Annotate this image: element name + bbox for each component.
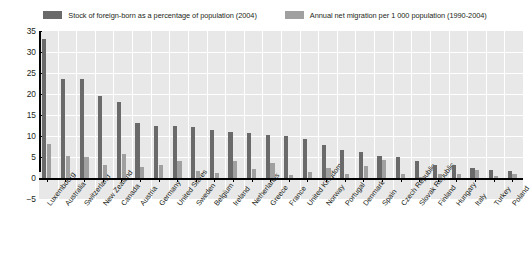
x-axis-tick-mark [140, 178, 141, 182]
bar-stock [228, 132, 232, 178]
bar-stock [266, 135, 270, 178]
bar-migration [270, 163, 274, 178]
bar-stock [247, 133, 251, 178]
x-axis-tick-mark [456, 178, 457, 182]
bar-migration [364, 166, 368, 178]
x-axis-tick-mark [47, 178, 48, 182]
bar-stock [359, 152, 363, 178]
x-axis-tick-mark [289, 178, 290, 182]
bar-migration [103, 165, 107, 178]
x-axis-tick-mark [419, 178, 420, 182]
bar-stock [489, 170, 493, 178]
y-axis-tick-mark [39, 178, 42, 179]
bar-stock [98, 96, 102, 178]
y-axis-tick-mark [39, 157, 42, 158]
x-axis-tick-mark [401, 178, 402, 182]
bar-migration [196, 171, 200, 178]
x-axis-category-label: Turkey [492, 185, 513, 208]
x-axis-tick-mark [345, 178, 346, 182]
y-axis-tick-mark [39, 73, 42, 74]
bar-migration [47, 144, 51, 178]
x-axis-tick-mark [307, 178, 308, 182]
bar-stock [508, 171, 512, 178]
x-axis-tick-mark [475, 178, 476, 182]
x-axis-tick-mark [103, 178, 104, 182]
bar-stock [173, 126, 177, 178]
zero-baseline [39, 178, 523, 180]
bar-stock [117, 102, 121, 178]
bar-stock [433, 165, 437, 178]
x-axis-tick-mark [512, 178, 513, 182]
bar-stock [322, 145, 326, 178]
x-axis-tick-mark [382, 178, 383, 182]
bar-migration [66, 156, 70, 178]
x-axis-tick-mark [233, 178, 234, 182]
y-axis-tick-mark [39, 52, 42, 53]
bar-migration [326, 168, 330, 178]
x-axis-tick-mark [326, 178, 327, 182]
bar-migration [159, 165, 163, 178]
bar-stock [452, 165, 456, 178]
bar-stock [415, 161, 419, 178]
bar-stock [42, 39, 46, 178]
x-axis-tick-mark [270, 178, 271, 182]
bar-stock [61, 79, 65, 178]
bar-migration [252, 169, 256, 178]
bar-migration [140, 167, 144, 178]
bar-stock [284, 136, 288, 178]
bar-migration [84, 157, 88, 178]
x-axis-tick-mark [214, 178, 215, 182]
bar-migration [382, 160, 386, 178]
chart-figure: Stock of foreign-born as a percentage of… [0, 0, 530, 272]
y-axis-tick-mark [39, 94, 42, 95]
bar-migration [122, 154, 126, 178]
x-axis-category-label: Spain [380, 187, 399, 207]
x-axis-category-label: Italy [473, 191, 488, 207]
bar-migration [177, 161, 181, 178]
y-axis-tick-mark [39, 115, 42, 116]
bar-stock [135, 123, 139, 178]
bar-migration [475, 170, 479, 178]
bar-migration [233, 161, 237, 178]
x-axis-tick-mark [159, 178, 160, 182]
bar-stock [303, 139, 307, 178]
bar-stock [396, 157, 400, 178]
x-axis-tick-mark [196, 178, 197, 182]
x-axis-tick-mark [84, 178, 85, 182]
x-axis-category-label: France [287, 184, 308, 207]
x-axis-tick-mark [121, 178, 122, 182]
x-axis-tick-mark [252, 178, 253, 182]
x-axis-tick-mark [438, 178, 439, 182]
bar-stock [210, 130, 214, 178]
x-axis-category-label: Poland [510, 184, 530, 207]
x-axis-tick-mark [177, 178, 178, 182]
x-axis-tick-mark [494, 178, 495, 182]
bar-stock [470, 168, 474, 179]
x-axis-tick-mark [65, 178, 66, 182]
x-axis-tick-mark [363, 178, 364, 182]
bar-stock [80, 79, 84, 178]
bar-stock [191, 127, 195, 178]
bar-stock [340, 150, 344, 178]
y-axis-tick-mark [39, 136, 42, 137]
bar-stock [154, 126, 158, 179]
y-axis-tick-mark [39, 31, 42, 32]
bar-stock [377, 156, 381, 178]
